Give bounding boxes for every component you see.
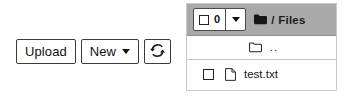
file-browser-panel: 0 / Files .. xyxy=(186,3,337,91)
checkbox-unchecked-icon[interactable] xyxy=(203,69,214,80)
new-dropdown-button[interactable]: New xyxy=(81,39,139,64)
new-button-label: New xyxy=(90,45,116,58)
file-panel-header: 0 / Files xyxy=(187,4,336,36)
list-item-name: .. xyxy=(270,42,278,54)
list-item[interactable]: test.txt xyxy=(187,59,336,89)
folder-filled-icon[interactable] xyxy=(254,14,267,25)
upload-button-label: Upload xyxy=(25,45,67,58)
refresh-button[interactable] xyxy=(144,39,171,64)
breadcrumb-separator: / xyxy=(271,14,274,26)
breadcrumb-current-label: Files xyxy=(278,14,305,26)
upload-button[interactable]: Upload xyxy=(16,39,76,64)
parent-directory-entry: .. xyxy=(249,42,278,54)
breadcrumb: / Files xyxy=(254,14,305,26)
list-item-name: test.txt xyxy=(244,69,278,81)
caret-down-icon xyxy=(122,49,130,54)
file-entry: test.txt xyxy=(225,68,278,81)
folder-outline-icon xyxy=(249,42,262,53)
checkbox-unchecked-icon xyxy=(199,15,209,25)
caret-down-icon xyxy=(232,17,240,22)
select-all-checkbox[interactable]: 0 xyxy=(194,9,226,30)
refresh-icon xyxy=(150,43,165,60)
selection-button-group: 0 xyxy=(193,8,246,31)
file-outline-icon xyxy=(225,68,236,81)
selected-count-label: 0 xyxy=(214,14,220,25)
selection-menu-button[interactable] xyxy=(226,9,245,30)
list-item[interactable]: .. xyxy=(187,36,336,59)
file-toolbar: Upload New xyxy=(16,39,171,64)
